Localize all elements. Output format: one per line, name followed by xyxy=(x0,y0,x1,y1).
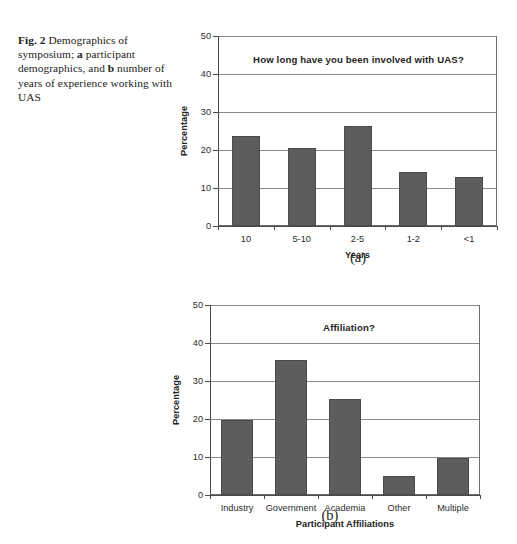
x-tick-mark xyxy=(480,495,481,499)
x-tick-label: 1-2 xyxy=(407,234,420,244)
x-axis-line xyxy=(218,226,497,227)
gridline xyxy=(219,36,496,37)
y-tick-mark xyxy=(205,381,210,382)
y-axis-line xyxy=(210,305,211,495)
x-tick-label: 2-5 xyxy=(351,234,364,244)
x-tick-mark xyxy=(218,226,219,230)
y-tick-label: 20 xyxy=(193,414,203,424)
y-axis-line xyxy=(218,36,219,226)
y-tick-mark xyxy=(213,150,218,151)
bar xyxy=(455,177,483,226)
y-tick-mark xyxy=(213,74,218,75)
y-tick-mark xyxy=(205,419,210,420)
x-tick-mark xyxy=(210,495,211,499)
x-tick-mark xyxy=(372,495,373,499)
chart-b-plot: 01020304050IndustryGovernmentAcademiaOth… xyxy=(0,275,517,544)
chart-a-plot: 01020304050105-102-51-2<1How long have y… xyxy=(0,0,517,280)
chart-panel-a: 01020304050105-102-51-2<1How long have y… xyxy=(0,0,517,280)
x-tick-label: Other xyxy=(388,503,411,513)
bar xyxy=(437,458,469,495)
y-tick-label: 10 xyxy=(201,183,211,193)
chart-title: How long have you been involved with UAS… xyxy=(253,54,464,65)
x-tick-mark xyxy=(426,495,427,499)
gridline xyxy=(211,343,479,344)
x-tick-mark xyxy=(274,226,275,230)
y-tick-mark xyxy=(205,343,210,344)
panel-label-a: (a) xyxy=(350,249,366,266)
chart-title: Affiliation? xyxy=(323,322,375,333)
bar xyxy=(232,136,260,226)
x-tick-label: 5-10 xyxy=(292,234,310,244)
bar xyxy=(344,126,372,226)
gridline xyxy=(211,381,479,382)
gridline xyxy=(219,74,496,75)
bar xyxy=(275,360,307,495)
x-tick-label: 10 xyxy=(241,234,251,244)
y-tick-label: 0 xyxy=(206,221,211,231)
y-axis-title: Percentage xyxy=(179,106,189,156)
y-tick-label: 50 xyxy=(201,31,211,41)
x-tick-mark xyxy=(330,226,331,230)
y-tick-label: 30 xyxy=(201,107,211,117)
y-tick-label: 40 xyxy=(201,69,211,79)
x-tick-label: Multiple xyxy=(437,503,469,513)
x-tick-mark xyxy=(264,495,265,499)
x-tick-label: <1 xyxy=(464,234,474,244)
bar xyxy=(399,172,427,226)
y-tick-label: 40 xyxy=(193,338,203,348)
x-tick-mark xyxy=(497,226,498,230)
x-tick-mark xyxy=(441,226,442,230)
gridline xyxy=(211,305,479,306)
x-tick-mark xyxy=(385,226,386,230)
y-tick-label: 10 xyxy=(193,452,203,462)
gridline xyxy=(219,112,496,113)
x-axis-line xyxy=(210,495,480,496)
bar xyxy=(288,148,316,226)
y-tick-label: 20 xyxy=(201,145,211,155)
y-tick-mark xyxy=(205,305,210,306)
bar xyxy=(383,476,415,495)
chart-panel-b: 01020304050IndustryGovernmentAcademiaOth… xyxy=(0,275,517,544)
y-tick-mark xyxy=(213,112,218,113)
y-tick-label: 50 xyxy=(193,300,203,310)
panel-label-b: (b) xyxy=(322,507,339,524)
y-tick-label: 0 xyxy=(198,490,203,500)
x-axis-title: Participant Affiliations xyxy=(296,519,394,529)
x-tick-mark xyxy=(318,495,319,499)
bar xyxy=(329,399,361,495)
y-tick-mark xyxy=(205,457,210,458)
y-tick-mark xyxy=(213,36,218,37)
y-tick-mark xyxy=(213,188,218,189)
y-tick-label: 30 xyxy=(193,376,203,386)
y-axis-title: Percentage xyxy=(171,375,181,425)
x-tick-label: Government xyxy=(266,503,317,513)
x-tick-label: Industry xyxy=(221,503,254,513)
bar xyxy=(221,420,253,495)
